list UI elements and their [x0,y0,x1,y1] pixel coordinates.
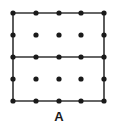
grid-dot-r5-c4 [78,98,83,103]
dot-grid-figure: A [0,0,118,128]
grid-dot-r3-c3 [56,54,61,59]
grid-dot-r1-c3 [56,10,61,15]
grid-dot-r2-c2 [33,32,38,37]
grid-dot-r5-c3 [56,98,61,103]
grid-dot-r5-c2 [33,98,38,103]
grid-dot-r3-c1 [10,54,15,59]
figure-label: A [0,110,118,124]
grid-dot-r3-c2 [33,54,38,59]
grid-dot-r4-c4 [78,76,83,81]
grid-dot-r2-c4 [78,32,83,37]
grid-dot-r1-c4 [78,10,83,15]
grid-dot-r5-c5 [101,98,106,103]
grid-dot-r3-c5 [101,54,106,59]
grid-dot-r4-c3 [56,76,61,81]
grid-dot-r3-c4 [78,54,83,59]
grid-dot-r1-c2 [33,10,38,15]
grid-dot-r5-c1 [10,98,15,103]
grid-dot-r1-c5 [101,10,106,15]
grid-dot-r2-c3 [56,32,61,37]
grid-dot-r4-c1 [10,76,15,81]
grid-dot-r4-c2 [33,76,38,81]
grid-dot-r2-c5 [101,32,106,37]
grid-dot-r1-c1 [10,10,15,15]
grid-dot-r2-c1 [10,32,15,37]
grid-dot-r4-c5 [101,76,106,81]
